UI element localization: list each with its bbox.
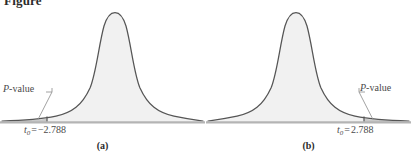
t-equals-b: =: [343, 124, 351, 135]
figure-panel-a: (a): [0, 0, 205, 162]
pvalue-leader-stem-a: [38, 92, 52, 120]
t-equals-a: =: [30, 124, 38, 135]
pvalue-leader-stem-b: [359, 92, 373, 120]
pvalue-label-b: P-value: [360, 82, 391, 93]
figure-panel-b: (b): [206, 0, 411, 162]
density-curve-fill-a: [2, 13, 203, 123]
figure-root: Figure (a) P-value t0=−2.7: [0, 0, 411, 162]
pvalue-label-b-rest: -value: [366, 82, 391, 93]
distribution-plot-b: [206, 0, 411, 140]
critical-value-label-b: t0=2.788: [337, 124, 373, 137]
panel-caption-a: (a): [0, 140, 205, 151]
t-value-b: 2.788: [351, 124, 374, 135]
pvalue-label-a: P-value: [3, 83, 34, 94]
pvalue-leader-line-a: [46, 88, 52, 92]
t-value-a: −2.788: [38, 124, 66, 135]
density-curve-fill-b: [208, 13, 409, 123]
distribution-plot-a: [0, 0, 205, 140]
panel-caption-b: (b): [206, 140, 411, 151]
pvalue-label-a-rest: -value: [9, 83, 34, 94]
critical-value-label-a: t0=−2.788: [24, 124, 66, 137]
